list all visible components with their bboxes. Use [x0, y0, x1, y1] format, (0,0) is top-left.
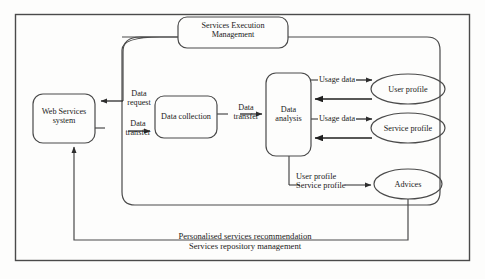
profiles-advices-label-line1: User profile: [296, 172, 370, 181]
data-transfer-right-label-line1: Data: [224, 103, 268, 112]
user-profile-node-label: User profile: [371, 85, 445, 94]
edge-feedback-loop: [74, 147, 408, 240]
data-collection-label-line1: Data collection: [152, 112, 220, 121]
data-analysis-label-line2: analysis: [266, 114, 311, 123]
data-request-edge-label: Data request: [118, 89, 160, 107]
outer-frame: [16, 15, 470, 261]
web-services-label-line2: system: [33, 116, 95, 125]
data-analysis-label-line1: Data: [266, 105, 311, 114]
user-profile-label: User profile: [371, 85, 445, 94]
data-collection-node-label: Data collection: [152, 112, 220, 121]
data-request-label-line2: request: [118, 98, 160, 107]
advices-label: Advices: [374, 180, 442, 189]
advices-node-label: Advices: [374, 180, 442, 189]
service-profile-node-label: Service profile: [371, 124, 445, 133]
service-profile-label: Service profile: [371, 124, 445, 133]
sem-label-line1: Services Execution: [180, 21, 286, 30]
sem-node-label: Services Execution Management: [180, 21, 286, 39]
web-services-label-line1: Web Services: [33, 107, 95, 116]
data-transfer-right-label-line2: transfer: [224, 112, 268, 121]
usage-data-service-edge-label: Usage data: [316, 114, 358, 123]
data-transfer-left-label-line2: transfer: [116, 128, 160, 137]
web-services-node-label: Web Services system: [33, 107, 95, 125]
data-transfer-right-edge-label: Data transfer: [224, 103, 268, 121]
profiles-advices-label-line2: Service profile: [296, 181, 370, 190]
sem-label-line2: Management: [180, 30, 286, 39]
data-request-label-line1: Data: [118, 89, 160, 98]
usage-data-user-edge-label: Usage data: [316, 75, 358, 84]
profiles-to-advices-edge-label: User profile Service profile: [296, 172, 370, 191]
data-transfer-left-label-line1: Data: [116, 119, 160, 128]
diagram-canvas: Services Execution Management Web Servic…: [0, 0, 485, 279]
data-transfer-left-edge-label: Data transfer: [116, 119, 160, 137]
feedback-label-line2: Services repository management: [115, 242, 375, 252]
feedback-loop-edge-label: Personalised services recommendation Ser…: [115, 232, 375, 251]
data-analysis-node-label: Data analysis: [266, 105, 311, 123]
